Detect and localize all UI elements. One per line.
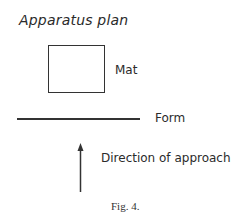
form-line bbox=[17, 118, 140, 120]
mat-rectangle bbox=[48, 45, 105, 93]
diagram-title: Apparatus plan bbox=[19, 12, 128, 28]
mat-label: Mat bbox=[115, 63, 137, 77]
figure-caption: Fig. 4. bbox=[111, 200, 139, 212]
direction-of-approach-label: Direction of approach bbox=[101, 151, 231, 165]
form-label: Form bbox=[155, 111, 185, 125]
up-arrow-icon bbox=[76, 143, 85, 192]
